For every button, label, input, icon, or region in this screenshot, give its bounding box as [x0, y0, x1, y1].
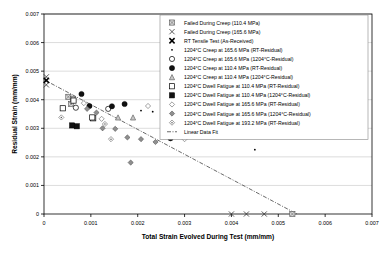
- x-tick-label: 0.002: [131, 220, 145, 226]
- marker-dot: [140, 110, 142, 112]
- y-tick-label: 0.001: [26, 182, 40, 188]
- marker-diamond-dotted: [59, 115, 64, 120]
- legend-item-label: 1204°C Creep at 110.4 MPa (1204°C-Residu…: [184, 74, 293, 80]
- x-tick-label: 0: [43, 220, 46, 226]
- legend-item-label: 1204°C Dwell Fatigue at 110.4 MPa (1204°…: [184, 92, 311, 98]
- x-tick-label: 0.003: [178, 220, 192, 226]
- legend-item-label: Linear Data Fit: [184, 129, 219, 135]
- marker-triangle-open: [130, 115, 135, 120]
- marker-circle-filled: [122, 101, 127, 106]
- legend-item-label: 1204°C Dwell Fatigue at 110.4 MPa (RT-Re…: [184, 83, 300, 89]
- marker-circle-filled: [109, 104, 114, 109]
- y-tick-label: 0: [36, 211, 39, 217]
- y-axis-ticks: 00.0010.0020.0030.0040.0050.0060.007: [26, 11, 45, 217]
- legend-item-label: Failed During Creep (165.6 MPa): [184, 29, 261, 35]
- marker-circle-open: [73, 105, 78, 110]
- marker-square-open: [60, 106, 65, 111]
- marker-diamond-filled: [128, 160, 133, 165]
- y-tick-label: 0.003: [26, 125, 40, 131]
- y-tick-label: 0.004: [26, 97, 40, 103]
- y-tick-label: 0.005: [26, 68, 40, 74]
- x-tick-label: 0.005: [272, 220, 286, 226]
- x-tick-label: 0.001: [84, 220, 98, 226]
- y-tick-label: 0.006: [26, 40, 40, 46]
- marker-square-crossed: [290, 211, 295, 216]
- chart-legend: Failed During Creep (110.4 MPa)Failed Du…: [160, 15, 368, 139]
- series-group: [115, 115, 135, 120]
- y-axis-title: Residual Strain (mm/mm): [11, 74, 19, 154]
- marker-circle-filled: [169, 65, 174, 70]
- marker-diamond-filled: [113, 126, 118, 131]
- marker-circle-filled: [79, 91, 84, 96]
- marker-square-open: [169, 84, 174, 89]
- marker-square-filled: [169, 93, 174, 98]
- legend-item-label: 1204°C Creep at 165.6 MPa (RT-Residual): [184, 47, 283, 53]
- series-group: [85, 106, 159, 165]
- marker-circle-open: [169, 56, 174, 61]
- x-tick-label: 0.004: [225, 220, 239, 226]
- legend-item-label: Failed During Creep (110.4 MPa): [184, 20, 260, 26]
- marker-dot: [152, 111, 154, 113]
- marker-triangle-open: [115, 115, 120, 120]
- marker-square-crossed: [169, 20, 174, 25]
- x-tick-label: 0.006: [318, 220, 332, 226]
- marker-diamond-filled: [94, 110, 99, 115]
- marker-square-filled: [70, 123, 75, 128]
- y-tick-label: 0.002: [26, 154, 40, 160]
- marker-square-filled: [74, 124, 79, 129]
- marker-diamond-open: [81, 101, 86, 106]
- marker-diamond-filled: [138, 137, 143, 142]
- legend-item-label: 1204°C Creep at 110.4 MPa (RT-Residual): [184, 65, 282, 71]
- marker-diamond-open: [145, 103, 150, 108]
- marker-dot: [171, 49, 173, 51]
- x-tick-label: 0.007: [365, 220, 379, 226]
- plot-canvas: 00.0010.0020.0030.0040.0050.0060.007 00.…: [0, 0, 382, 259]
- marker-dot: [254, 149, 256, 151]
- legend-item-label: 1204°C Dwell Fatigue at 165.6 MPa (1204°…: [184, 111, 311, 117]
- y-tick-label: 0.007: [26, 11, 40, 17]
- marker-diamond-open: [99, 116, 104, 121]
- legend-item-label: RT Tensile Test (As-Received): [184, 38, 254, 44]
- marker-diamond-dotted: [108, 137, 113, 142]
- residual-strain-scatter-chart: 00.0010.0020.0030.0040.0050.0060.007 00.…: [0, 0, 382, 259]
- legend-item-label: 1204°C Dwell Fatigue at 193.2 MPa (RT-Re…: [184, 120, 300, 126]
- legend-item-label: 1204°C Dwell Fatigue at 165.6 MPa (RT-Re…: [184, 101, 300, 107]
- x-axis-title: Total Strain Evolved During Test (mm/mm): [142, 233, 274, 241]
- legend-item-label: 1204°C Creep at 165.6 MPa (1204°C-Residu…: [184, 56, 294, 62]
- x-axis-ticks: 00.0010.0020.0030.0040.0050.0060.007: [43, 214, 379, 226]
- series-group: [70, 123, 80, 129]
- marker-square-open: [71, 98, 76, 103]
- marker-square-open: [90, 115, 95, 120]
- marker-diamond-filled: [125, 135, 130, 140]
